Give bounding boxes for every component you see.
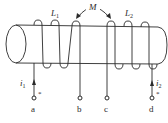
current-i1-arrow-icon [32,79,36,85]
terminal-a[interactable]: * a [31,90,42,114]
terminal-c[interactable]: c [104,96,109,114]
terminal-a-node[interactable] [32,96,36,100]
terminal-b[interactable]: b [77,96,82,114]
terminal-c-label: c [104,104,108,114]
terminal-d-node[interactable] [150,96,154,100]
coupled-coil-diagram: M L1 L2 i1 i2 * a b c * d [0,0,168,123]
mutual-inductance-arc: M [76,1,111,19]
terminal-b-label: b [77,104,82,114]
coil-l2 [107,21,157,96]
terminal-b-node[interactable] [78,96,82,100]
terminal-d-label: d [149,104,154,114]
terminal-a-dot-mark: * [38,90,42,98]
terminal-c-node[interactable] [105,96,109,100]
coil-l1 [34,20,80,96]
core-bottom-edge [16,63,158,64]
coil-l1-label: L1 [50,8,59,19]
core-right-end [158,27,167,64]
cylinder-core [6,25,167,64]
terminal-d-dot-mark: * [156,90,160,98]
terminal-d[interactable]: * d [149,90,160,114]
current-i2-arrow-icon [150,80,154,86]
core-left-end [6,25,26,63]
terminal-a-label: a [31,104,35,114]
mutual-label: M [88,2,97,12]
current-i1-label: i1 [20,78,26,89]
coil-l2-label: L2 [124,8,133,19]
current-i2-label: i2 [156,78,162,89]
core-top-edge [16,25,158,27]
